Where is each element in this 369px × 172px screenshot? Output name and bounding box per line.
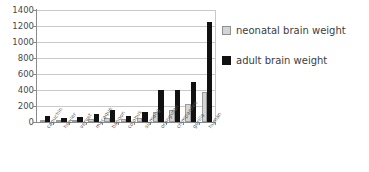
y-axis-tick-label: 600 <box>2 70 34 78</box>
y-axis-tick-label: 200 <box>2 102 34 110</box>
y-axis-tick-label: 1200 <box>2 22 34 30</box>
y-axis-tick-label: 1000 <box>2 38 34 46</box>
bar-adult <box>158 90 163 122</box>
bar-group <box>40 10 51 122</box>
bar-group <box>121 10 132 122</box>
bar-adult <box>207 22 212 122</box>
bar-group <box>56 10 67 122</box>
legend-item-neonatal: neonatal brain weight <box>222 24 367 36</box>
bar-group <box>88 10 99 122</box>
legend: neonatal brain weight adult brain weight <box>222 24 367 84</box>
bar-group <box>104 10 115 122</box>
plot-right-border <box>215 10 216 123</box>
legend-swatch-adult-icon <box>222 56 231 65</box>
y-axis-tick-label: 0 <box>2 118 34 126</box>
legend-item-adult: adult brain weight <box>222 54 367 66</box>
y-axis: 0200400600800100012001400 <box>0 0 34 132</box>
bar-group <box>153 10 164 122</box>
bar-group <box>137 10 148 122</box>
bar-group <box>202 10 213 122</box>
y-axis-tick-label: 400 <box>2 86 34 94</box>
bar-chart: 0200400600800100012001400 capuchinhowler… <box>0 0 369 172</box>
legend-label-adult: adult brain weight <box>236 55 327 66</box>
bar-group <box>72 10 83 122</box>
legend-label-neonatal: neonatal brain weight <box>236 25 346 36</box>
legend-swatch-neonatal-icon <box>222 26 231 35</box>
y-axis-tick-label: 800 <box>2 54 34 62</box>
y-axis-tick-label: 1400 <box>2 6 34 14</box>
